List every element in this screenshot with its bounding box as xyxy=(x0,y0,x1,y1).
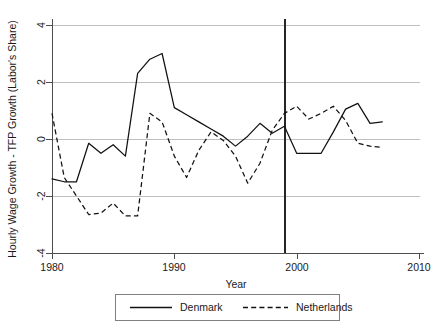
legend-label-netherlands: Netherlands xyxy=(296,301,353,313)
x-axis-title: Year xyxy=(225,278,247,290)
y-axis-title: Hourly Wage Growth - TFP Growth (Labor's… xyxy=(6,20,18,258)
y-tick-label-minus-2: -2 xyxy=(35,191,47,200)
legend-label-denmark: Denmark xyxy=(180,301,223,313)
x-tick-label-2000: 2000 xyxy=(285,261,309,273)
y-tick-label-minus-4: -4 xyxy=(35,248,47,257)
x-tick-label-1980: 1980 xyxy=(40,261,64,273)
line-chart: 4 2 0 -2 -4 1980 1990 2000 2010 Year Hou… xyxy=(0,0,434,328)
chart-figure: 4 2 0 -2 -4 1980 1990 2000 2010 Year Hou… xyxy=(0,0,434,328)
y-tick-label-4: 4 xyxy=(35,22,47,28)
y-tick-label-0: 0 xyxy=(35,136,47,142)
y-axis-tick-labels: 4 2 0 -2 -4 xyxy=(35,22,47,258)
series-line-denmark xyxy=(52,54,382,182)
x-axis-tick-labels: 1980 1990 2000 2010 xyxy=(40,261,431,273)
legend: Denmark Netherlands xyxy=(116,295,353,321)
y-tick-label-2: 2 xyxy=(35,79,47,85)
series-line-netherlands xyxy=(52,106,382,216)
x-tick-label-1990: 1990 xyxy=(162,261,186,273)
x-tick-label-2010: 2010 xyxy=(407,261,431,273)
x-axis-ticks xyxy=(52,253,419,259)
gridlines xyxy=(52,25,420,253)
